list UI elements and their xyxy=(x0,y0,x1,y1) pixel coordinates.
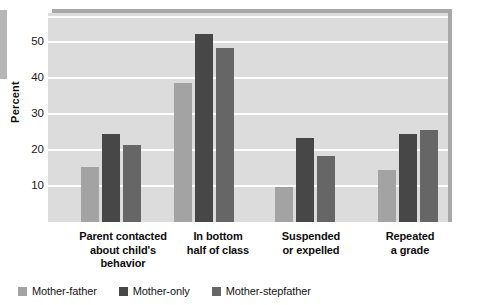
gridline xyxy=(48,77,448,79)
bar xyxy=(123,145,141,222)
bar xyxy=(195,34,213,222)
bar xyxy=(420,130,438,222)
bar xyxy=(378,170,396,222)
y-axis-tick-label: 40 xyxy=(18,71,44,83)
category-label-line: Repeated xyxy=(335,230,485,244)
y-axis-tick-label: 10 xyxy=(18,179,44,191)
legend-label: Mother-only xyxy=(133,285,190,297)
left-margin-marker xyxy=(0,10,7,79)
bar xyxy=(317,156,335,222)
legend-item[interactable]: Mother-only xyxy=(119,285,190,297)
legend-label: Mother-father xyxy=(32,285,97,297)
bar xyxy=(174,83,192,222)
chart-plot-frame xyxy=(48,9,452,222)
y-axis-tick-label: 30 xyxy=(18,107,44,119)
category-label-line: behavior xyxy=(48,257,198,271)
legend-item[interactable]: Mother-stepfather xyxy=(212,285,311,297)
x-axis-category-label: Repeateda grade xyxy=(335,230,485,257)
gridline xyxy=(48,41,448,43)
bar xyxy=(296,138,314,222)
bar-chart-figure: Percent 1020304050 Parent contactedabout… xyxy=(0,0,490,305)
gridline xyxy=(48,113,448,115)
plot-area xyxy=(48,13,448,222)
y-axis-tick-label: 50 xyxy=(18,35,44,47)
legend-label: Mother-stepfather xyxy=(226,285,311,297)
bar xyxy=(275,187,293,222)
legend-swatch-icon xyxy=(18,287,27,296)
bar xyxy=(399,134,417,222)
plot-right-edge-shadow xyxy=(448,9,452,222)
legend-swatch-icon xyxy=(119,287,128,296)
legend-item[interactable]: Mother-father xyxy=(18,285,97,297)
y-axis-tick-label: 20 xyxy=(18,143,44,155)
category-label-line: a grade xyxy=(335,244,485,258)
chart-legend: Mother-fatherMother-onlyMother-stepfathe… xyxy=(18,283,333,299)
bar xyxy=(216,48,234,222)
bar xyxy=(81,167,99,222)
bar xyxy=(102,134,120,222)
legend-swatch-icon xyxy=(212,287,221,296)
gridline xyxy=(48,16,448,18)
